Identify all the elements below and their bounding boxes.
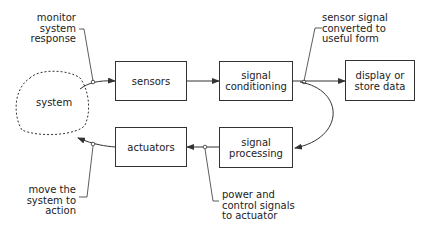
block-actuators-label: actuators	[127, 142, 174, 153]
block-signal-conditioning: signal conditioning	[219, 61, 293, 101]
annotation-sensor-signal-line3: useful form	[322, 34, 426, 45]
block-signal-processing-line2: processing	[229, 148, 283, 159]
annotation-sensor-signal-line1: sensor signal	[322, 13, 426, 24]
block-signal-processing-line1: signal	[229, 137, 283, 148]
annotation-monitor-line3: response	[20, 34, 76, 45]
annotation-sensor-signal: sensor signal converted to useful form	[322, 13, 426, 45]
annotation-move-line3: action	[20, 206, 76, 217]
block-display: display or store data	[345, 60, 415, 101]
block-display-line2: store data	[355, 81, 406, 92]
leader-move	[79, 146, 93, 197]
annotation-monitor-line1: monitor	[20, 13, 76, 24]
annotation-move: move the system to action	[20, 185, 76, 217]
edge-conditioning-to-processing	[295, 82, 333, 148]
block-sensors: sensors	[115, 61, 187, 101]
annotation-power: power and control signals to actuator	[222, 190, 332, 222]
block-display-line1: display or	[355, 70, 406, 81]
block-signal-conditioning-line1: signal	[225, 70, 287, 81]
block-actuators: actuators	[115, 127, 187, 167]
annotation-move-line1: move the	[20, 185, 76, 196]
annotation-power-line3: to actuator	[222, 211, 332, 222]
system-label: system	[36, 97, 72, 108]
leader-sensor-signal	[304, 28, 322, 81]
edge-actuators-to-system	[78, 138, 115, 147]
connector-dot-move	[91, 142, 95, 146]
block-sensors-label: sensors	[132, 76, 170, 87]
edge-system-to-sensors	[80, 81, 115, 89]
leader-power	[205, 149, 219, 201]
annotation-monitor: monitor system response	[20, 13, 76, 45]
connector-dot-power	[203, 145, 207, 149]
leader-monitor	[79, 29, 93, 81]
block-signal-conditioning-line2: conditioning	[225, 81, 287, 92]
annotation-power-line1: power and	[222, 190, 332, 201]
block-signal-processing: signal processing	[219, 127, 293, 168]
